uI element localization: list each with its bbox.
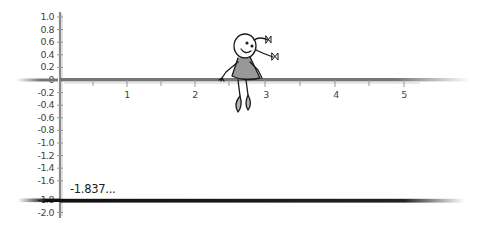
x-tick-label: 2	[192, 89, 198, 100]
y-tick-label: -1.4	[37, 162, 54, 173]
y-tick-label: -0.8	[37, 124, 54, 135]
y-tick-label: -0.4	[37, 99, 54, 110]
y-tick-label: 0.8	[40, 24, 54, 35]
y-tick-label: 1.0	[40, 11, 54, 22]
y-axis	[60, 12, 62, 218]
stick-figure-girl-icon	[219, 34, 278, 112]
y-tick-labels: 1.0 0.8 0.6 0.4 0.2 0 -0.2 -0.4 -0.6 -0.…	[37, 11, 54, 218]
value-annotation: -1.837...	[70, 182, 115, 196]
x-tick-label: 1	[124, 89, 130, 100]
y-tick-label: -0.2	[37, 87, 54, 98]
y-tick-label: -2.0	[37, 207, 54, 218]
y-tick-label: -1.6	[37, 175, 54, 186]
x-tick-label: 5	[401, 89, 407, 100]
y-tick-label: 0.6	[40, 36, 54, 47]
chart-plot: 1.0 0.8 0.6 0.4 0.2 0 -0.2 -0.4 -0.6 -0.…	[0, 0, 477, 228]
y-tick-label: -1.0	[37, 137, 54, 148]
x-tick-label: 3	[263, 89, 269, 100]
x-tick-labels: 1 2 3 4 5	[124, 89, 407, 100]
y-tick-label: 0.2	[40, 61, 54, 72]
x-tick-label: 4	[333, 89, 339, 100]
y-tick-label: 0.4	[40, 49, 54, 60]
y-tick-label: -1.2	[37, 150, 54, 161]
y-tick-label: -0.6	[37, 112, 54, 123]
constant-line	[18, 199, 465, 203]
